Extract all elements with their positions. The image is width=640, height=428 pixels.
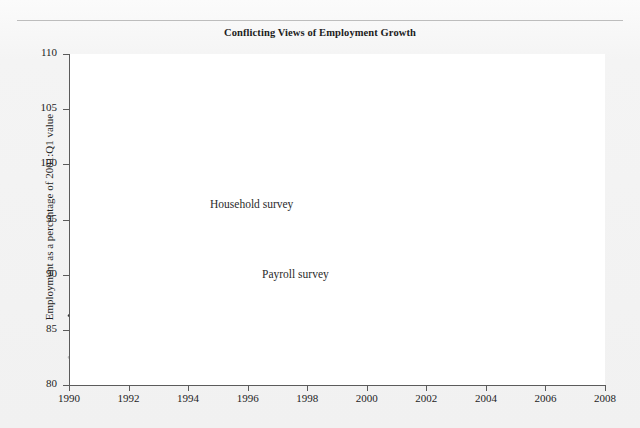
y-tick-label-100: 100 [31, 156, 57, 168]
x-tick-label-2008: 2008 [585, 392, 625, 404]
x-tick-1992 [129, 386, 130, 391]
x-axis-line [69, 385, 606, 386]
y-tick-100 [63, 164, 69, 165]
x-tick-1994 [188, 386, 189, 391]
x-tick-label-2002: 2002 [406, 392, 446, 404]
y-tick-95 [63, 220, 69, 221]
x-tick-label-2004: 2004 [466, 392, 506, 404]
x-tick-2002 [426, 386, 427, 391]
x-tick-2008 [605, 386, 606, 391]
y-tick-90 [63, 275, 69, 276]
x-tick-1998 [307, 386, 308, 391]
x-tick-label-2006: 2006 [525, 392, 565, 404]
x-tick-2006 [545, 386, 546, 391]
x-tick-label-1992: 1992 [109, 392, 149, 404]
plot-area [69, 54, 605, 385]
y-tick-105 [63, 109, 69, 110]
y-tick-85 [63, 330, 69, 331]
chart-title: Conflicting Views of Employment Growth [17, 27, 623, 38]
y-axis-line [69, 54, 70, 386]
x-tick-label-2000: 2000 [347, 392, 387, 404]
y-tick-label-90: 90 [31, 267, 57, 279]
household-survey-label: Household survey [210, 198, 293, 210]
y-tick-label-105: 105 [31, 101, 57, 113]
x-tick-2004 [486, 386, 487, 391]
x-tick-label-1994: 1994 [168, 392, 208, 404]
x-tick-label-1990: 1990 [49, 392, 89, 404]
x-tick-1990 [69, 386, 70, 391]
x-tick-2000 [367, 386, 368, 391]
y-tick-label-85: 85 [31, 322, 57, 334]
x-tick-label-1996: 1996 [228, 392, 268, 404]
figure-container: Conflicting Views of Employment Growth E… [17, 21, 623, 421]
y-tick-label-80: 80 [31, 377, 57, 389]
page-background: Conflicting Views of Employment Growth E… [0, 0, 640, 428]
payroll-survey-label: Payroll survey [262, 268, 329, 280]
x-tick-1996 [248, 386, 249, 391]
y-tick-label-95: 95 [31, 212, 57, 224]
x-tick-label-1998: 1998 [287, 392, 327, 404]
y-tick-110 [63, 54, 69, 55]
y-tick-label-110: 110 [31, 46, 57, 58]
